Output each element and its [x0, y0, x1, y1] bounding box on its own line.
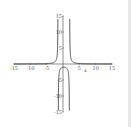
y-tick-label: 5: [59, 45, 62, 51]
x-tick-label: -10: [26, 65, 34, 71]
x-tick-label: -5: [44, 65, 49, 71]
function-plot: -15-10-55101515105-5-10-15 x: [0, 0, 131, 127]
y-tick-label: 15: [56, 13, 62, 19]
x-tick-label: 5: [78, 65, 81, 71]
y-tick-label: 10: [56, 29, 62, 35]
x-axis-label: x: [84, 67, 87, 73]
y-tick-label: -5: [57, 77, 62, 83]
x-tick-label: 10: [92, 65, 98, 71]
y-tick-label: -10: [54, 93, 62, 99]
x-tick-label: -15: [10, 65, 18, 71]
window-edge: [128, 0, 131, 127]
x-tick-label: 15: [109, 65, 115, 71]
